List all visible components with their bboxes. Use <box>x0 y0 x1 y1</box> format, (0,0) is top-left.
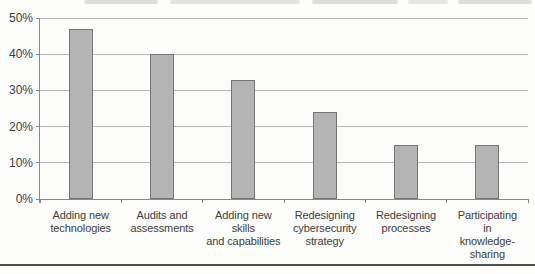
x-axis-label-line: Participating <box>447 209 528 222</box>
x-axis-tick <box>121 199 122 203</box>
bar-4 <box>394 145 418 199</box>
bar-0 <box>69 29 93 199</box>
x-axis-label-line: processes <box>365 222 446 235</box>
y-axis-label: 0% <box>0 193 33 206</box>
x-axis-label: Redesigningprocesses <box>365 209 446 235</box>
x-axis-label-line: assessments <box>121 222 202 235</box>
x-axis-tick <box>284 199 285 203</box>
x-axis-label-line: in <box>447 222 528 235</box>
bar-5 <box>475 145 499 199</box>
x-axis-line <box>40 199 528 200</box>
gridline-20 <box>40 126 528 127</box>
x-axis-label-line: technologies <box>40 222 121 235</box>
x-axis-tick <box>528 199 529 203</box>
y-axis-label: 30% <box>0 84 33 97</box>
x-axis-label-line: Adding new <box>40 209 121 222</box>
bottom-divider <box>0 264 535 266</box>
gridline-40 <box>40 54 528 55</box>
bar-2 <box>231 80 255 199</box>
x-axis-label-line: knowledge- <box>447 235 528 248</box>
bar-3 <box>313 112 337 199</box>
x-axis-label-line: Audits and <box>121 209 202 222</box>
y-axis-line <box>39 18 40 203</box>
bar-chart: 0%10%20%30%40%50%Adding newtechnologiesA… <box>0 0 535 274</box>
x-axis-label: Redesigningcybersecuritystrategy <box>284 209 365 248</box>
y-axis-label: 40% <box>0 48 33 61</box>
x-axis-label-line: sharing <box>447 248 528 261</box>
x-axis-label-line: and capabilities <box>203 235 284 248</box>
gridline-30 <box>40 90 528 91</box>
x-axis-label: Adding newtechnologies <box>40 209 121 235</box>
x-axis-label-line: Redesigning <box>284 209 365 222</box>
x-axis-label-line: strategy <box>284 235 365 248</box>
gridline-50 <box>40 18 528 19</box>
x-axis-tick <box>446 199 447 203</box>
y-axis-label: 10% <box>0 157 33 170</box>
page: 0%10%20%30%40%50%Adding newtechnologiesA… <box>0 0 535 274</box>
x-axis-label-line: skills <box>203 222 284 235</box>
bar-1 <box>150 54 174 199</box>
x-axis-label: Participatinginknowledge-sharing <box>447 209 528 261</box>
y-axis-label: 50% <box>0 12 33 25</box>
x-axis-label-line: Redesigning <box>365 209 446 222</box>
x-axis-label-line: Adding new <box>203 209 284 222</box>
x-axis-label: Audits andassessments <box>121 209 202 235</box>
y-axis-label: 20% <box>0 121 33 134</box>
gridline-10 <box>40 162 528 163</box>
x-axis-tick <box>202 199 203 203</box>
x-axis-tick <box>365 199 366 203</box>
x-axis-label-line: cybersecurity <box>284 222 365 235</box>
x-axis-label: Adding newskillsand capabilities <box>203 209 284 248</box>
